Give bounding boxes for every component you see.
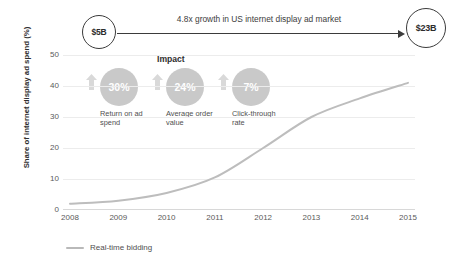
line-series-layer (63, 55, 415, 210)
y-axis-tick-label: 20 (41, 143, 59, 152)
x-axis-tick-label: 2013 (289, 213, 333, 222)
growth-header: $5B 4.8x growth in US internet display a… (0, 0, 474, 52)
x-axis-tick-label: 2009 (96, 213, 140, 222)
y-axis-tick-label: 10 (41, 174, 59, 183)
x-axis-tick-label: 2008 (48, 213, 92, 222)
right-arrow-icon (398, 30, 405, 38)
x-axis-tick-label: 2010 (145, 213, 189, 222)
x-axis-tick-label: 2011 (193, 213, 237, 222)
y-axis-title: Share of internet display ad spend (%) (22, 18, 31, 178)
market-size-end-node: $23B (406, 8, 446, 48)
chart-legend: Real-time bidding (66, 243, 152, 252)
y-axis-tick-label: 30 (41, 112, 59, 121)
line-series-real-time-bidding (70, 83, 408, 204)
y-axis-tick-label: 50 (41, 50, 59, 59)
legend-swatch-real-time-bidding (66, 247, 84, 249)
legend-label: Real-time bidding (90, 243, 152, 252)
market-size-start-node: $5B (82, 15, 116, 49)
x-axis-tick-label: 2015 (386, 213, 430, 222)
y-axis-tick-label: 40 (41, 81, 59, 90)
x-axis-tick-label: 2012 (241, 213, 285, 222)
growth-arrow-line (117, 33, 402, 34)
growth-label: 4.8x growth in US internet display ad ma… (120, 14, 398, 24)
x-axis-tick-label: 2014 (338, 213, 382, 222)
